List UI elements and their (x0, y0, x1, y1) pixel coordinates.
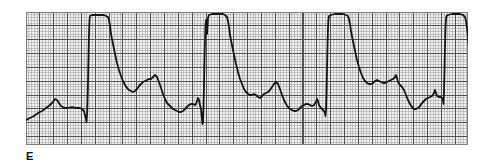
ecg-trace-polyline (26, 14, 468, 124)
panel-label: E (26, 150, 34, 162)
ecg-waveform-trace (26, 12, 468, 145)
ecg-figure: E (0, 0, 488, 165)
ecg-paper (26, 12, 468, 145)
